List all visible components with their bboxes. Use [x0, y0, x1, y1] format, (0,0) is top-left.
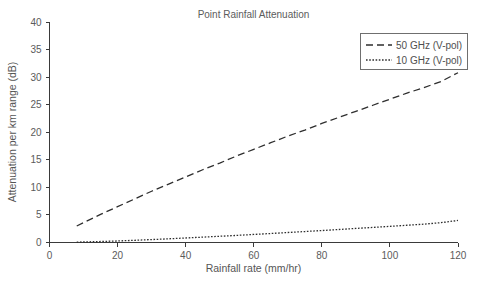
chart-figure: Point Rainfall Attenuation 0510152025303… — [0, 0, 490, 284]
y-tick-label: 10 — [30, 182, 42, 193]
x-tick-label: 40 — [180, 250, 192, 261]
x-axis-title: Rainfall rate (mm/hr) — [206, 262, 302, 274]
x-tick-label: 20 — [112, 250, 124, 261]
x-tick-label: 80 — [316, 250, 328, 261]
x-tick-label: 0 — [47, 250, 53, 261]
x-tick-label: 60 — [248, 250, 260, 261]
y-tick-label: 25 — [30, 99, 42, 110]
y-tick-label: 5 — [36, 209, 42, 220]
y-tick-label: 0 — [36, 237, 42, 248]
y-tick-label: 35 — [30, 44, 42, 55]
legend-label-50ghz: 50 GHz (V-pol) — [396, 40, 462, 51]
legend: 50 GHz (V-pol) 10 GHz (V-pol) — [361, 34, 468, 70]
y-tick-label: 20 — [30, 127, 42, 138]
chart-title: Point Rainfall Attenuation — [198, 9, 310, 20]
legend-label-10ghz: 10 GHz (V-pol) — [396, 55, 462, 66]
y-tick-label: 40 — [30, 17, 42, 28]
x-tick-label: 100 — [382, 250, 399, 261]
x-tick-label: 120 — [450, 250, 467, 261]
y-tick-label: 30 — [30, 72, 42, 83]
chart-svg: Point Rainfall Attenuation 0510152025303… — [0, 0, 490, 284]
y-tick-label: 15 — [30, 154, 42, 165]
y-axis-title: Attenuation per km range (dB) — [6, 62, 18, 203]
